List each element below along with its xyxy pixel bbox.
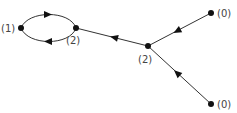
arrow-left-icon — [44, 38, 52, 45]
node-0-bottom — [208, 101, 214, 107]
arrow-left-icon — [109, 33, 118, 42]
node-2-center — [145, 43, 151, 49]
node-0-top — [208, 10, 214, 16]
node-2-left — [73, 25, 79, 31]
node-label: (2) — [66, 35, 80, 46]
node-label: (0) — [217, 8, 231, 19]
node-label: (1) — [1, 23, 15, 34]
arrow-right-icon — [44, 11, 52, 18]
node-label: (0) — [217, 99, 231, 110]
node-label: (2) — [138, 54, 152, 65]
node-1 — [18, 25, 24, 31]
graph-diagram: (1) (2) (2) (0) (0) — [0, 0, 237, 113]
edge-loop-upper — [21, 15, 76, 29]
arrow-down-left-icon — [172, 26, 182, 36]
